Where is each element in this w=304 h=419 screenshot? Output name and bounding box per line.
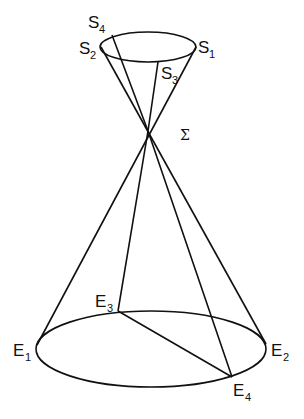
svg-text:S: S (79, 39, 90, 58)
label-s1: S 1 (198, 38, 215, 60)
svg-text:1: 1 (209, 48, 215, 60)
svg-text:E: E (233, 381, 244, 400)
svg-text:4: 4 (245, 391, 251, 403)
double-cone-diagram: Σ S 4 S 2 S 1 S 3 E 1 E 2 E 3 E 4 (0, 0, 304, 419)
line-s3-e3 (118, 62, 158, 311)
label-e1: E 1 (13, 341, 31, 363)
label-s3: S 3 (161, 64, 178, 86)
label-s4: S 4 (88, 13, 105, 35)
line-s2-e2 (101, 47, 266, 344)
svg-text:E: E (271, 341, 282, 360)
chord-e3-e4 (118, 311, 232, 377)
line-s4-e4 (112, 35, 232, 377)
label-e3: E 3 (95, 292, 113, 314)
label-s2: S 2 (79, 39, 96, 61)
apex-label: Σ (180, 127, 190, 143)
svg-text:2: 2 (283, 351, 289, 363)
svg-text:3: 3 (172, 74, 178, 86)
label-e2: E 2 (271, 341, 289, 363)
svg-text:4: 4 (99, 23, 105, 35)
svg-text:E: E (95, 292, 106, 311)
line-s1-e1 (37, 47, 196, 345)
svg-text:S: S (88, 13, 99, 32)
top-ellipse (100, 32, 196, 62)
svg-text:2: 2 (90, 49, 96, 61)
label-e4: E 4 (233, 381, 251, 403)
svg-text:E: E (13, 341, 24, 360)
svg-text:S: S (198, 38, 209, 57)
svg-text:1: 1 (25, 351, 31, 363)
svg-text:3: 3 (107, 302, 113, 314)
svg-text:S: S (161, 64, 172, 83)
